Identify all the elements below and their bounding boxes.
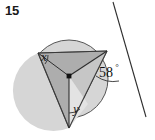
tangent-line [113,2,146,117]
circle-center-dot [67,74,72,79]
question-number: 15 [5,4,19,17]
degree-symbol-icon: ° [115,62,119,72]
angle-58-value: 58 [99,65,113,80]
angle-y-label: y [72,102,79,116]
angle-x-label: x [40,50,47,64]
circle-diagram-svg: x y 58 ° [0,0,155,140]
geometry-figure: 15 x [0,0,155,140]
